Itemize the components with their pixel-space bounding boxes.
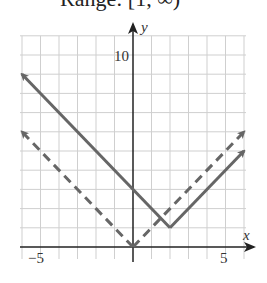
chart: x y −5 5 10 <box>0 0 267 283</box>
y-tick-label-10: 10 <box>114 48 129 64</box>
x-tick-label-neg5: −5 <box>28 250 44 266</box>
x-tick-label-5: 5 <box>220 250 228 266</box>
y-axis-label: y <box>139 19 148 35</box>
axes: x y −5 5 10 <box>20 19 254 266</box>
x-axis-label: x <box>242 227 250 243</box>
